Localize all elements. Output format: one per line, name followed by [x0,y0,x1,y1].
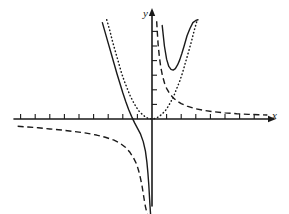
axes-group [14,8,276,206]
dashed-hyperbola-left-branch [18,126,149,214]
y-axis-arrowhead [149,8,155,16]
y-axis-label: y [143,8,148,19]
dashed-hyperbola-right-branch [157,21,268,115]
curves-group [18,20,268,214]
x-axis-label: x [272,110,277,121]
solid-curve-right-branch [162,20,198,70]
graph-figure: x y [0,0,289,214]
coordinate-plot [0,0,289,214]
